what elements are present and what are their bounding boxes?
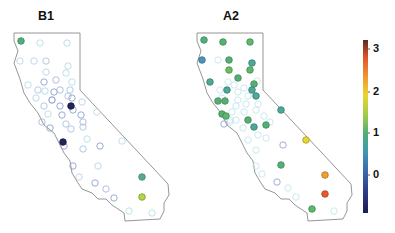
colorbar-tick-1: 1	[373, 126, 379, 138]
b1-open-markers	[17, 40, 155, 216]
colorbar	[363, 40, 370, 213]
maps-figure	[0, 0, 395, 233]
colorbar-tick-0: 0	[373, 168, 379, 180]
colorbar-tick-2: 2	[373, 85, 379, 97]
a2-open-markers	[215, 57, 337, 214]
map-a2	[197, 33, 352, 221]
colorbar-tick-3: 3	[373, 42, 379, 54]
